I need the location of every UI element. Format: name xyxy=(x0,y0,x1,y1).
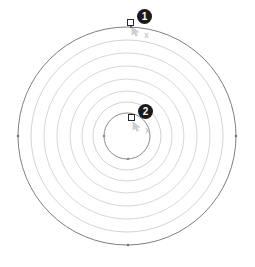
concentric-rings-group xyxy=(18,27,236,245)
circle-4[interactable] xyxy=(57,66,197,206)
circle-2[interactable] xyxy=(31,40,223,232)
node-bottom[interactable] xyxy=(127,244,129,246)
circle-6[interactable] xyxy=(82,91,172,181)
callout-badge-2: 2 xyxy=(138,104,153,119)
node-inner-bottom[interactable] xyxy=(127,158,129,160)
snap-marker-icon-2: x xyxy=(143,126,152,135)
circle-3[interactable] xyxy=(44,53,210,219)
node-right[interactable] xyxy=(235,135,237,137)
node-left[interactable] xyxy=(17,135,19,137)
concentric-circles-figure xyxy=(0,0,255,267)
callout-badge-1: 1 xyxy=(137,9,152,24)
node-inner-left[interactable] xyxy=(103,135,105,137)
drawing-canvas[interactable]: x 1 x 2 xyxy=(0,0,255,267)
snap-marker-icon-1: x xyxy=(142,31,151,40)
circle-5[interactable] xyxy=(70,79,184,193)
circle-1[interactable] xyxy=(18,27,236,245)
